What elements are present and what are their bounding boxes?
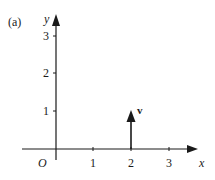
coordinate-plane <box>0 0 215 180</box>
vector-v-arrowhead-icon <box>127 110 136 122</box>
y-tick-label-1: 1 <box>43 105 49 117</box>
x-tick-label-1: 1 <box>90 157 96 169</box>
y-tick-label-2: 2 <box>43 67 49 79</box>
y-tick-label-3: 3 <box>43 30 49 42</box>
origin-label: O <box>38 157 47 169</box>
x-tick-label-3: 3 <box>166 157 172 169</box>
y-axis-arrow-icon <box>52 14 60 26</box>
x-axis-label: x <box>199 157 204 169</box>
x-tick-label-2: 2 <box>128 157 134 169</box>
figure-label: (a) <box>8 16 21 28</box>
vector-v-label: v <box>137 105 143 116</box>
x-axis-arrow-icon <box>187 145 198 153</box>
y-axis-label: y <box>44 13 49 25</box>
